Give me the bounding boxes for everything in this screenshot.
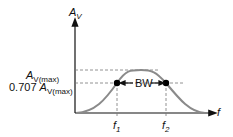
y-axis-label: AV [69,6,82,21]
f1-dot [114,80,120,86]
x-axis-label: f [217,106,220,118]
f2-label: f2 [162,119,170,134]
a707-label: 0.707 AV(max) [9,81,73,96]
bw-label: BW [135,77,153,89]
f1-label: f1 [113,119,121,134]
f2-dot [163,80,169,86]
